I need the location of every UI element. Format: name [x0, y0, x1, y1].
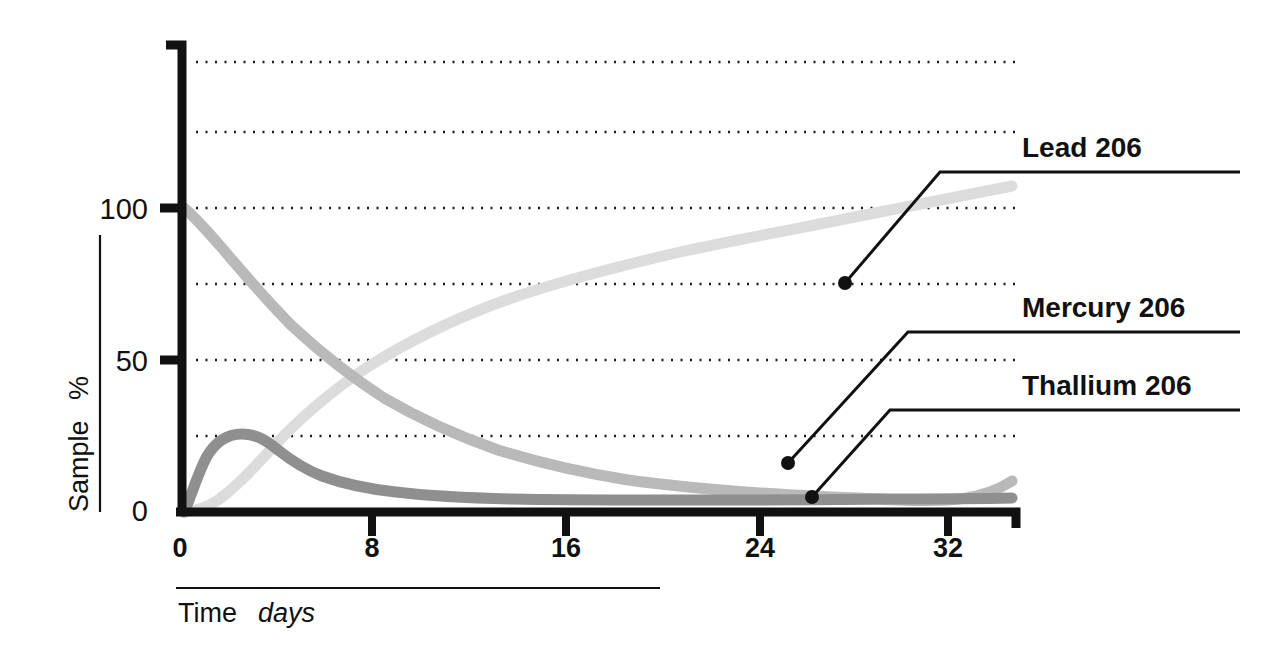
- callout-leader-lead: [845, 172, 1240, 283]
- x-axis-label-24: 24: [745, 533, 775, 563]
- chart-canvas: 100 50 0 0 8 16 24 32 Sample % Time days…: [0, 0, 1266, 660]
- gridlines-group: [196, 62, 1020, 436]
- y-axis-label-0: 0: [132, 495, 148, 527]
- y-axis-line: [166, 45, 182, 512]
- callout-dot-thallium: [805, 490, 819, 504]
- callout-thallium-206: Thallium 206: [805, 370, 1240, 504]
- x-axis-title-unit: days: [258, 598, 315, 628]
- y-axis-title-unit: %: [64, 376, 94, 400]
- series-label-thallium: Thallium 206: [1022, 370, 1192, 401]
- y-axis-title-group: Sample %: [64, 235, 100, 512]
- callout-leader-thallium: [812, 410, 1240, 497]
- x-axis-line: [176, 512, 1016, 528]
- x-axis-label-16: 16: [551, 533, 581, 563]
- series-label-lead: Lead 206: [1022, 132, 1142, 163]
- x-axis-label-32: 32: [933, 533, 963, 563]
- x-axis-label-8: 8: [364, 533, 379, 563]
- series-label-mercury: Mercury 206: [1022, 292, 1185, 323]
- x-axis-label-0: 0: [172, 533, 187, 563]
- y-axis-label-50: 50: [116, 345, 148, 377]
- callout-dot-lead: [838, 276, 852, 290]
- callout-dot-mercury: [781, 456, 795, 470]
- radioactive-decay-chart: 100 50 0 0 8 16 24 32 Sample % Time days…: [0, 0, 1266, 660]
- y-axis-label-100: 100: [100, 193, 148, 225]
- x-axis-title-time: Time: [178, 598, 237, 628]
- y-axis-title-sample: Sample: [64, 420, 94, 512]
- x-axis-title-group: Time days: [176, 588, 660, 628]
